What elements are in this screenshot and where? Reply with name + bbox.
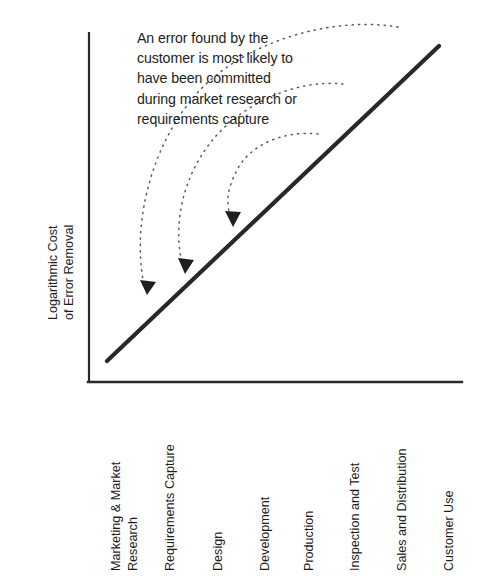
- cost-of-error-removal-figure: An error found by the customer is most l…: [0, 0, 484, 582]
- x-axis-label-production: Production: [302, 511, 317, 571]
- arrowhead-1: [140, 280, 156, 295]
- x-axis-label-inspection-and-test: Inspection and Test: [348, 463, 363, 571]
- arrowhead-3: [225, 211, 241, 227]
- arrowhead-2: [178, 258, 194, 274]
- x-axis-label-requirements-capture: Requirements Capture: [163, 444, 178, 571]
- x-axis-label-marketing-market-research-line1: Marketing & Market: [109, 462, 124, 571]
- x-axis-label-customer-use: Customer Use: [442, 491, 457, 571]
- y-axis-label: Logarithmic Cost of Error Removal: [46, 120, 77, 320]
- annotation-callout-text: An error found by the customer is most l…: [137, 28, 337, 129]
- x-axis-label-design: Design: [211, 532, 226, 571]
- x-axis-label-marketing-market-research-line2: Research: [126, 517, 141, 571]
- x-axis-label-development: Development: [258, 497, 273, 571]
- x-axis-label-sales-and-distribution: Sales and Distribution: [395, 448, 410, 571]
